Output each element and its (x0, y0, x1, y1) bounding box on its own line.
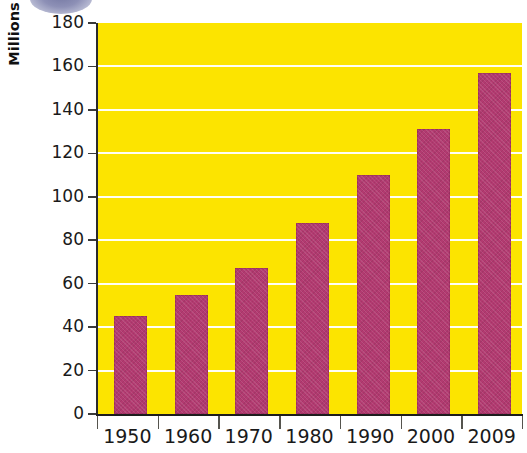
bar (357, 175, 390, 414)
bar (478, 73, 511, 414)
x-axis-tick-label: 2009 (457, 425, 527, 447)
y-axis-tick-label: 160 (28, 55, 84, 75)
gridline (97, 65, 522, 67)
y-axis-tick-label: 140 (28, 99, 84, 119)
x-axis-tick-label: 1960 (153, 425, 223, 447)
bar (114, 316, 147, 414)
bar (235, 268, 268, 414)
y-axis-tick-label: 80 (28, 229, 84, 249)
y-axis-tick-labels: 180160140120100806040200 (24, 0, 84, 453)
y-axis-tick-label: 0 (28, 403, 84, 423)
y-axis-tick-marks (88, 0, 98, 453)
y-axis-tick-label: 40 (28, 316, 84, 336)
x-axis-tick-label: 2000 (396, 425, 466, 447)
bar-chart-figure: Millions 180160140120100806040200 195019… (0, 0, 527, 453)
x-axis-tick-label: 1970 (214, 425, 284, 447)
y-axis-tick (88, 413, 96, 415)
x-axis-tick-label: 1980 (275, 425, 345, 447)
y-axis-tick (88, 326, 96, 328)
bar (175, 295, 208, 414)
bar (417, 129, 450, 414)
y-axis-tick (88, 109, 96, 111)
y-axis-tick (88, 22, 96, 24)
gridline (97, 196, 522, 198)
y-axis-tick-label: 180 (28, 12, 84, 32)
bar (296, 223, 329, 414)
gridline (97, 152, 522, 154)
gridline (97, 109, 522, 111)
y-axis-tick (88, 66, 96, 68)
plot-area (97, 23, 522, 414)
x-axis-tick-label: 1990 (335, 425, 405, 447)
y-axis-tick (88, 153, 96, 155)
y-axis-tick (88, 283, 96, 285)
y-axis-tick (88, 370, 96, 372)
y-axis-title: Millions (6, 0, 22, 70)
x-axis-line (96, 414, 523, 416)
y-axis-tick (88, 239, 96, 241)
x-axis-tick-label: 1950 (92, 425, 162, 447)
y-axis-tick-label: 20 (28, 360, 84, 380)
y-axis-tick-label: 60 (28, 273, 84, 293)
y-axis-tick (88, 196, 96, 198)
y-axis-tick-label: 100 (28, 186, 84, 206)
y-axis-tick-label: 120 (28, 142, 84, 162)
